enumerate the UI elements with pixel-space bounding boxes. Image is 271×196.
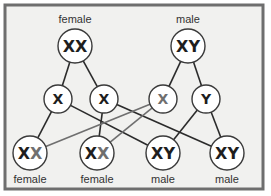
offspring-o1-node: XXfemale — [13, 136, 47, 185]
sex-label: female — [58, 13, 91, 25]
chromosome-letter: X — [63, 37, 76, 56]
chromosome-letter: Y — [162, 144, 175, 163]
sex-label: male — [176, 13, 200, 25]
parent-father-chromosomes: XY — [176, 37, 200, 56]
gamete-g3-chromosomes: X — [158, 91, 169, 107]
gamete-g2-node: X — [90, 85, 118, 113]
chromosome-letter: X — [151, 144, 164, 163]
chromosome-letter: Y — [187, 37, 200, 56]
parent-father-node: XYmale — [171, 13, 205, 63]
gamete-g2-chromosomes: X — [99, 91, 110, 107]
chromosome-letter: X — [85, 144, 98, 163]
sex-label: female — [80, 173, 113, 185]
chromosome-letter: X — [97, 144, 110, 163]
offspring-o2-node: XXfemale — [80, 136, 114, 185]
gamete-g1-node: X — [44, 85, 72, 113]
offspring-o4-chromosomes: XY — [215, 144, 239, 163]
chromosome-letter: X — [215, 144, 228, 163]
sex-label: female — [13, 173, 46, 185]
chromosome-letter: X — [30, 144, 43, 163]
sex-label: male — [151, 173, 175, 185]
chromosome-letter: X — [176, 37, 189, 56]
parent-mother-chromosomes: XX — [63, 37, 88, 56]
sex-chromosome-inheritance-diagram: XXfemaleXYmaleXXXYXXfemaleXXfemaleXYmale… — [0, 0, 271, 196]
offspring-o4-node: XYmale — [210, 136, 244, 185]
chromosome-letter: Y — [226, 144, 239, 163]
offspring-o1-chromosomes: XX — [18, 144, 43, 163]
chromosome-letter: X — [18, 144, 31, 163]
offspring-o3-node: XYmale — [146, 136, 180, 185]
parent-mother-node: XXfemale — [58, 13, 92, 63]
offspring-o3-chromosomes: XY — [151, 144, 175, 163]
offspring-o2-chromosomes: XX — [85, 144, 110, 163]
sex-label: male — [215, 173, 239, 185]
gamete-g4-node: Y — [192, 85, 220, 113]
gamete-g3-node: X — [149, 85, 177, 113]
gamete-g4-chromosomes: Y — [200, 91, 212, 107]
gamete-g1-chromosomes: X — [53, 91, 64, 107]
chromosome-letter: X — [75, 37, 88, 56]
